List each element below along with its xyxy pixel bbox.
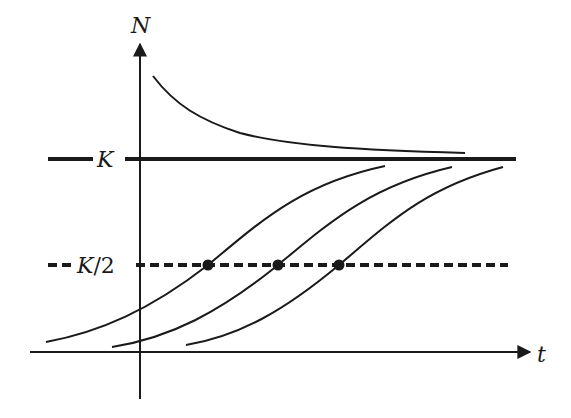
inflection-point-2 [273, 260, 284, 271]
k-half-label-k: K [76, 253, 95, 278]
logistic-growth-diagram: N t K K/2 [0, 0, 571, 418]
decay-curve [153, 76, 465, 153]
inflection-point-3 [334, 260, 345, 271]
t-axis-label: t [537, 342, 546, 367]
k-half-label-two: 2 [101, 253, 115, 278]
axes [30, 44, 530, 399]
k-half-label: K/2 [76, 253, 115, 278]
inflection-point-1 [203, 260, 214, 271]
logistic-curve-3 [186, 167, 503, 345]
logistic-curve-2 [112, 167, 452, 347]
k-label: K [96, 147, 115, 172]
n-axis-label: N [130, 13, 151, 38]
solution-curves [46, 76, 503, 347]
